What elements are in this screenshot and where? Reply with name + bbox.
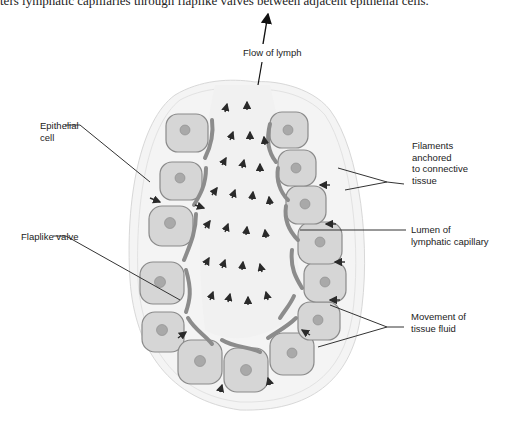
label-flaplike-valve: Flaplike valve (21, 231, 79, 243)
lymphatic-capillary-illustration (0, 0, 516, 425)
label-epithelial-cell: Epithelial cell (40, 120, 79, 143)
label-lumen: Lumen of lymphatic capillary (411, 224, 489, 247)
label-flow-of-lymph: Flow of lymph (243, 47, 302, 59)
flow-of-lymph-arrow (263, 14, 268, 44)
label-movement-of-tissue-fluid: Movement of tissue fluid (411, 311, 466, 334)
label-filaments: Filaments anchored to connective tissue (412, 140, 468, 186)
